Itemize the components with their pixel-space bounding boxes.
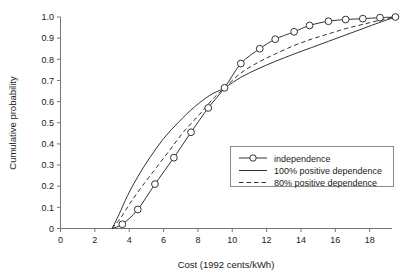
- data-point-marker: [306, 22, 313, 29]
- data-point-marker: [359, 15, 366, 22]
- y-tick-label: 0.9: [41, 33, 54, 43]
- data-point-marker: [342, 16, 349, 23]
- legend-label-independence: independence: [274, 154, 331, 164]
- data-point-marker: [205, 105, 212, 112]
- x-axis-ticks: 024681012141618: [58, 229, 375, 245]
- x-tick-label: 4: [127, 235, 132, 245]
- data-point-marker: [377, 14, 384, 21]
- y-tick-label: 1.0: [41, 12, 54, 22]
- chart-canvas: 00.10.20.30.40.50.60.70.80.91.0 02468101…: [0, 0, 411, 279]
- y-tick-label: 0.2: [41, 181, 54, 191]
- data-point-marker: [119, 221, 126, 228]
- y-tick-label: 0.8: [41, 55, 54, 65]
- data-point-marker: [152, 181, 159, 188]
- y-tick-label: 0: [49, 224, 54, 234]
- series-line-2: [112, 17, 395, 229]
- x-tick-label: 6: [161, 235, 166, 245]
- x-tick-label: 8: [195, 235, 200, 245]
- x-tick-label: 18: [365, 235, 375, 245]
- data-point-marker: [272, 36, 279, 43]
- y-tick-label: 0.4: [41, 139, 54, 149]
- y-tick-label: 0.7: [41, 76, 54, 86]
- legend-label-partial-dependence: 80% positive dependence: [274, 178, 377, 188]
- series-line-1: [112, 17, 395, 229]
- data-series-group: [112, 17, 395, 229]
- y-tick-label: 0.3: [41, 160, 54, 170]
- y-axis-ticks: 00.10.20.30.40.50.60.70.80.91.0: [41, 12, 60, 234]
- x-axis-title: Cost (1992 cents/kWh): [178, 259, 275, 270]
- data-point-marker: [188, 129, 195, 136]
- data-point-marker: [291, 28, 298, 35]
- y-tick-label: 0.6: [41, 97, 54, 107]
- x-tick-label: 16: [330, 235, 340, 245]
- legend-label-full-dependence: 100% positive dependence: [274, 166, 382, 176]
- y-tick-label: 0.5: [41, 118, 54, 128]
- data-point-marker: [221, 84, 228, 91]
- chart-figure: 00.10.20.30.40.50.60.70.80.91.0 02468101…: [0, 0, 411, 279]
- legend-marker-independence: [250, 155, 256, 161]
- data-point-marker: [392, 14, 399, 21]
- data-point-marker: [325, 18, 332, 25]
- data-point-marker: [170, 154, 177, 161]
- data-point-marker: [134, 206, 141, 213]
- data-point-marker: [237, 60, 244, 67]
- x-tick-label: 14: [296, 235, 306, 245]
- y-tick-label: 0.1: [41, 203, 54, 213]
- x-tick-label: 12: [262, 235, 272, 245]
- series-line-0: [112, 17, 395, 229]
- x-tick-label: 2: [92, 235, 97, 245]
- data-markers-group: [119, 14, 399, 228]
- legend: independence 100% positive dependence 80…: [231, 147, 394, 189]
- data-point-marker: [256, 45, 263, 52]
- x-tick-label: 0: [58, 235, 63, 245]
- y-axis-title: Cumulative probability: [7, 76, 18, 170]
- axes-group: [61, 17, 393, 229]
- x-tick-label: 10: [227, 235, 237, 245]
